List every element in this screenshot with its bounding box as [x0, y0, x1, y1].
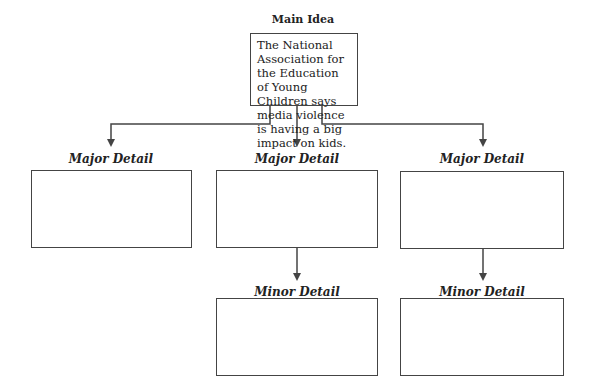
major-detail-label-3: Major Detail: [400, 152, 564, 166]
main-idea-title: Main Idea: [250, 13, 356, 26]
minor-detail-label-2: Minor Detail: [400, 285, 564, 299]
main-idea-text: The National Association for the Educati…: [257, 38, 346, 150]
major-detail-box-2[interactable]: [216, 170, 378, 248]
minor-detail-box-1[interactable]: [216, 298, 378, 376]
major-detail-box-3[interactable]: [400, 171, 564, 249]
minor-detail-box-2[interactable]: [400, 298, 564, 376]
major-detail-label-1: Major Detail: [31, 152, 191, 166]
minor-detail-label-1: Minor Detail: [216, 285, 378, 299]
major-detail-label-2: Major Detail: [216, 152, 378, 166]
main-idea-box: The National Association for the Educati…: [250, 33, 358, 106]
major-detail-box-1[interactable]: [31, 170, 192, 248]
